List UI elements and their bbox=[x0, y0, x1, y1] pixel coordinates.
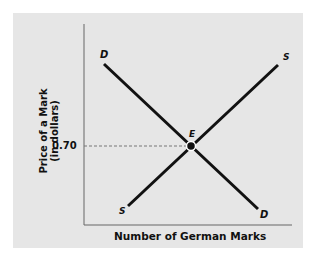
demand-label-top: D bbox=[100, 49, 108, 60]
demand-label-bottom: D bbox=[260, 209, 268, 220]
equilibrium-point bbox=[187, 142, 196, 151]
y-axis-label-line2: (in dollars) bbox=[49, 76, 60, 186]
supply-curve bbox=[128, 65, 278, 206]
x-axis-label: Number of German Marks bbox=[114, 230, 266, 242]
supply-label-bottom: S bbox=[119, 206, 125, 216]
demand-curve bbox=[104, 64, 258, 209]
y-tick-label: 0.70 bbox=[52, 140, 77, 151]
supply-label-top: S bbox=[283, 52, 289, 62]
y-axis-label: Price of a Mark (in dollars) bbox=[38, 76, 60, 186]
y-axis-label-line1: Price of a Mark bbox=[38, 76, 49, 186]
equilibrium-label: E bbox=[189, 129, 195, 139]
